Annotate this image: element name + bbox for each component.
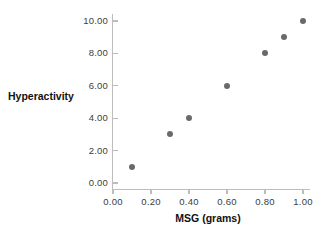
x-tick-mark — [264, 189, 265, 194]
y-tick-label: 0.00 — [62, 177, 108, 188]
x-tick-mark — [112, 189, 113, 194]
y-tick-label: 8.00 — [62, 47, 108, 58]
x-tick-label: 0.40 — [169, 196, 209, 207]
x-tick-label: 0.00 — [93, 196, 133, 207]
x-tick-label: 0.20 — [131, 196, 171, 207]
x-tick-mark — [150, 189, 151, 194]
x-tick-mark — [226, 189, 227, 194]
x-tick-mark — [188, 189, 189, 194]
x-tick-label: 0.60 — [207, 196, 247, 207]
x-axis-title: MSG (grams) — [113, 212, 303, 224]
y-tick-label: 4.00 — [62, 112, 108, 123]
data-point — [300, 18, 306, 24]
plot-area — [113, 21, 303, 183]
x-axis-line — [112, 189, 310, 190]
scatter-plot-figure: 0.002.004.006.008.0010.00 0.000.200.400.… — [0, 0, 329, 236]
x-tick-label: 1.00 — [283, 196, 323, 207]
y-tick-label: 10.00 — [62, 15, 108, 26]
data-point — [129, 164, 135, 170]
y-axis-title: Hyperactivity — [8, 90, 88, 102]
x-tick-label: 0.80 — [245, 196, 285, 207]
data-point — [224, 83, 230, 89]
y-tick-label: 2.00 — [62, 145, 108, 156]
x-tick-mark — [302, 189, 303, 194]
